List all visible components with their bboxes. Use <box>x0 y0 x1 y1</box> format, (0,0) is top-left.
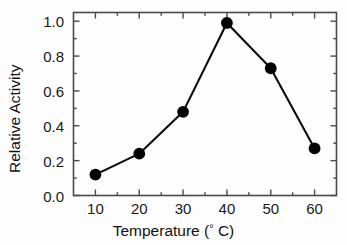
data-markers <box>90 17 321 180</box>
x-axis-title: Temperature (° C) <box>0 222 347 240</box>
x-tick-label: 50 <box>262 200 279 217</box>
y-tick-label: 0.6 <box>26 82 64 99</box>
data-point <box>177 106 189 118</box>
data-point <box>133 148 145 160</box>
x-tick-label: 10 <box>87 200 104 217</box>
x-tick-label: 60 <box>306 200 323 217</box>
axis-ticks <box>74 13 337 196</box>
data-point <box>90 169 102 181</box>
x-tick-label: 30 <box>175 200 192 217</box>
data-point <box>221 17 233 29</box>
x-tick-label: 20 <box>131 200 148 217</box>
x-axis-title-unit: C) <box>214 222 235 239</box>
y-tick-label: 0.4 <box>26 117 64 134</box>
y-tick-label: 0.8 <box>26 48 64 65</box>
chart-container: 0.00.20.40.60.81.0 102030405060 Temperat… <box>0 0 347 245</box>
data-line <box>95 23 314 175</box>
y-tick-label: 0.2 <box>26 152 64 169</box>
plot-frame <box>74 13 337 196</box>
x-axis-title-text: Temperature ( <box>113 222 209 239</box>
x-tick-label: 40 <box>219 200 236 217</box>
y-tick-label: 1.0 <box>26 13 64 30</box>
y-tick-label: 0.0 <box>26 187 64 204</box>
data-point <box>265 62 277 74</box>
data-point <box>309 143 321 155</box>
y-axis-title: Relative Activity <box>6 64 24 173</box>
